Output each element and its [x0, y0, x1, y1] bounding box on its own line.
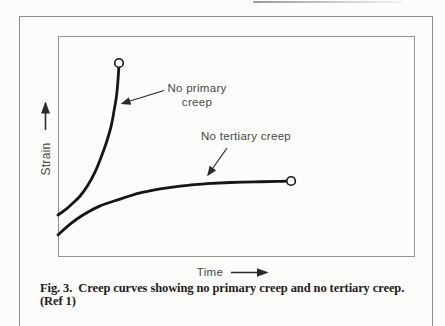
caption-line2: (Ref 1)	[40, 295, 420, 308]
annotation-no-tertiary-creep: No tertiary creep	[201, 129, 291, 143]
tertiary-creep-leader-arrow	[208, 148, 227, 175]
annotation-no-primary-line1: No primary	[167, 81, 226, 95]
primary-creep-leader-arrow	[122, 91, 164, 104]
annotation-no-primary-line2: creep	[167, 95, 226, 109]
curve-no-primary-creep	[58, 63, 119, 215]
caption-line1: Fig. 3. Creep curves showing no primary …	[40, 282, 420, 295]
y-axis-label: Strain	[39, 142, 53, 175]
x-axis-label: Time	[197, 265, 223, 279]
end-marker-no-tertiary-creep	[287, 177, 296, 186]
curve-no-tertiary-creep	[58, 181, 291, 235]
figure-caption: Fig. 3. Creep curves showing no primary …	[40, 282, 420, 308]
end-marker-no-primary-creep	[115, 59, 124, 68]
annotation-no-primary-creep: No primary creep	[167, 81, 226, 109]
